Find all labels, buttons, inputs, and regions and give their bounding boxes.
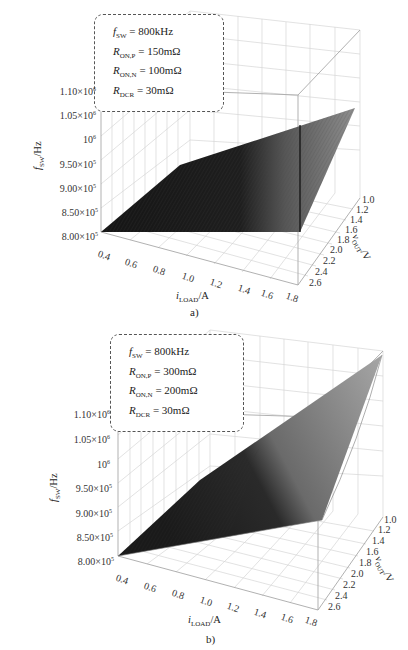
parameter-legend-b: fSW = 800kHz RON,P = 300mΩ RON,N = 200mΩ… [110, 334, 244, 432]
legend-fsw-a: fSW = 800kHz [113, 24, 213, 44]
legend-ronn-b: RON,N = 200mΩ [129, 383, 233, 403]
chart-panel-a: fSW = 800kHz RON,P = 150mΩ RON,N = 100mΩ… [0, 0, 408, 320]
legend-ronp-a: RON,P = 150mΩ [113, 44, 213, 64]
chart-panel-b: fSW = 800kHz RON,P = 300mΩ RON,N = 200mΩ… [0, 320, 408, 650]
legend-ronp-b: RON,P = 300mΩ [129, 364, 233, 384]
legend-fsw-b: fSW = 800kHz [129, 344, 233, 364]
z-axis-title-a: fSW/Hz [32, 141, 46, 170]
caption-a: a) [190, 306, 199, 318]
caption-b: b) [206, 633, 215, 645]
x-axis-title-a: iLOAD/A [176, 290, 209, 304]
x-axis-title-b: iLOAD/A [188, 614, 221, 628]
z-axis-title-b: fSW/Hz [48, 473, 62, 502]
legend-ronn-a: RON,N = 100mΩ [113, 63, 213, 83]
legend-rdcr-a: RDCR = 30mΩ [113, 83, 213, 103]
parameter-legend-a: fSW = 800kHz RON,P = 150mΩ RON,N = 100mΩ… [94, 14, 224, 112]
legend-rdcr-b: RDCR = 30mΩ [129, 403, 233, 423]
